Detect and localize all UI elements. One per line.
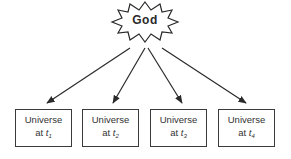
universe-label: Universe xyxy=(228,113,266,126)
universe-box-t3: Universe at t3 xyxy=(150,109,207,147)
time-label: at t3 xyxy=(170,126,187,143)
time-label: at t2 xyxy=(102,126,119,143)
universe-box-t2: Universe at t2 xyxy=(82,109,139,147)
universe-label: Universe xyxy=(160,113,198,126)
arrow-to-universe-t3 xyxy=(148,48,182,103)
universe-label: Universe xyxy=(92,113,130,126)
time-label: at t1 xyxy=(35,126,52,143)
universe-label: Universe xyxy=(25,113,63,126)
universe-box-t1: Universe at t1 xyxy=(15,109,72,147)
universe-box-t4: Universe at t4 xyxy=(218,109,275,147)
time-label: at t4 xyxy=(238,126,255,143)
arrow-to-universe-t4 xyxy=(162,48,246,103)
god-label: God xyxy=(120,13,170,27)
